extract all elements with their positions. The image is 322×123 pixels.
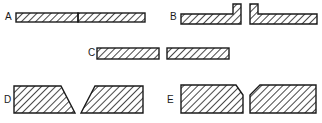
joint-a-shape (16, 13, 145, 22)
joint-c-shape (97, 48, 229, 59)
weld-joints-diagram (0, 0, 322, 123)
joint-e-shape (181, 85, 316, 113)
joint-d-shape (14, 86, 143, 113)
joint-b-shape (181, 4, 317, 24)
